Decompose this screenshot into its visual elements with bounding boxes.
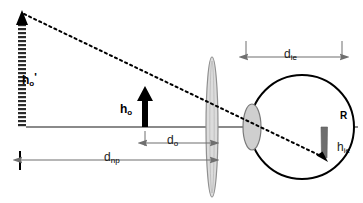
label-image-eye-height: hie [337,138,350,155]
label-ho-sub: o [127,108,132,117]
label-object-distance: do [167,131,178,148]
optics-ray-diagram: ho' ho do dnp die hie R [0,0,363,203]
label-dnp-base: d [104,150,111,164]
magnifier-lens [206,57,218,197]
label-object-height: ho [120,100,132,117]
diagram-canvas [0,0,363,203]
label-die-sub: ie [291,53,297,62]
object-arrow [137,86,153,127]
label-hie-base: h [337,140,344,154]
label-retina: R [340,106,347,122]
label-dnp-sub: np [111,156,120,165]
label-die-base: d [284,47,291,61]
label-ho-prime-mark: ' [34,71,37,83]
label-do-sub: o [174,139,178,148]
label-image-eye-distance: die [284,45,297,62]
label-near-point-distance: dnp [104,148,120,165]
label-hie-sub: ie [344,146,350,155]
label-r-base: R [340,110,347,121]
label-do-base: d [167,133,174,147]
eyeball [250,75,354,179]
label-virtual-object-height: ho' [22,71,37,88]
virtual-object-arrow [16,10,28,128]
